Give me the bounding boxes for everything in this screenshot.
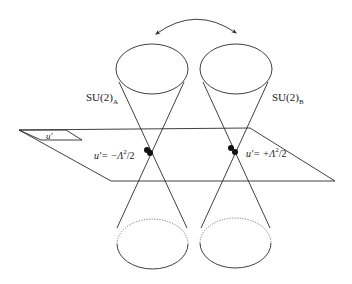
su2-a-label: SU(2)A: [86, 91, 118, 106]
cone-a-bottom-ellipse-back: [117, 219, 188, 244]
cone-a-top-ellipse: [116, 44, 188, 94]
cone-b-top-ellipse: [200, 44, 272, 94]
cone-b-bottom-ellipse-back: [200, 218, 271, 243]
cone-b-bottom-ellipse-front: [200, 243, 271, 268]
cone-a-bottom-ellipse-front: [117, 244, 188, 269]
moduli-plane: [19, 128, 335, 181]
point-left-label: u'= −Λ2/2: [94, 148, 134, 161]
su2-b-label: SU(2)B: [272, 91, 304, 106]
point-right-label: u'= +Λ2/2: [246, 146, 286, 159]
double-arrow-icon: [156, 19, 236, 34]
plane-label: u': [46, 131, 54, 141]
cone-a-vertex-dot-2: [147, 150, 153, 156]
cone-b-vertex-dot-2: [232, 149, 238, 155]
diagram-canvas: SU(2)A SU(2)B u' u'= −Λ2/2 u'= +Λ2/2: [0, 0, 352, 284]
